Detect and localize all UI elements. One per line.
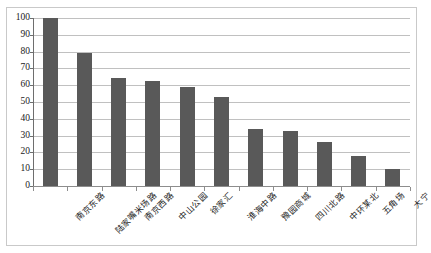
x-axis-category-label: 淮海中路 (247, 191, 278, 222)
y-axis-tick-label: 10 (21, 164, 31, 174)
y-axis-tick-label: 50 (21, 97, 31, 107)
x-axis-category-label: 南京东路 (75, 191, 106, 222)
x-axis-category-label: 四川北路 (315, 191, 346, 222)
y-axis-labels: 0102030405060708090100 (0, 0, 30, 253)
x-axis-category-label: 五角场 (381, 191, 406, 216)
y-axis-tick-label: 60 (21, 80, 31, 90)
bar[interactable] (317, 142, 332, 186)
y-axis-tick-label: 100 (16, 13, 30, 23)
y-axis-line (33, 18, 34, 187)
bar[interactable] (214, 97, 229, 186)
x-axis-category-label: 大宁 (412, 191, 431, 210)
bar[interactable] (248, 129, 263, 186)
x-axis-category-label: 徐家汇 (209, 191, 234, 216)
x-axis-labels: 南京东路陆家嘴米场路南京西路中山公园徐家汇淮海中路豫园商城四川北路中环某北五角场… (33, 191, 424, 253)
plot-area (33, 18, 410, 186)
y-axis-tick-label: 70 (21, 63, 31, 73)
bar[interactable] (43, 18, 58, 186)
x-axis-category-label: 中环某北 (349, 191, 380, 222)
y-axis-tick-label: 40 (21, 114, 31, 124)
y-axis-tick-label: 20 (21, 147, 31, 157)
bar[interactable] (283, 131, 298, 186)
bar[interactable] (180, 87, 195, 186)
y-axis-tick-label: 90 (21, 30, 31, 40)
y-axis-tick-label: 30 (21, 131, 31, 141)
bar[interactable] (385, 169, 400, 186)
bar[interactable] (145, 81, 160, 186)
x-axis-category-label: 豫园商城 (281, 191, 312, 222)
bar[interactable] (77, 53, 92, 186)
gridline (33, 18, 410, 19)
bar[interactable] (351, 156, 366, 186)
bar[interactable] (111, 78, 126, 186)
y-axis-tick-label: 80 (21, 47, 31, 57)
x-axis-category-label: 中山公园 (178, 191, 209, 222)
gridline (33, 35, 410, 36)
